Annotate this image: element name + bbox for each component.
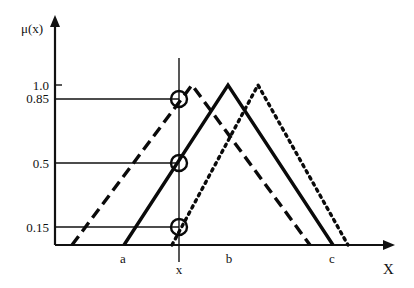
y-tick-label-0-85: 0.85 <box>4 92 49 105</box>
x-tick-label-c: c <box>320 252 344 265</box>
y-tick-label-0-5: 0.5 <box>4 157 49 170</box>
fuzzy-membership-figure: μ(x) 1.0 0.85 0.5 0.15 a x b c X <box>0 0 414 288</box>
x-tick-label-x: x <box>167 263 191 276</box>
x-tick-label-a: a <box>111 252 135 265</box>
x-axis-title: X <box>383 262 394 277</box>
plot-canvas <box>0 0 414 288</box>
x-axis-arrowhead <box>383 240 395 250</box>
y-axis-arrowhead <box>50 15 60 27</box>
y-axis <box>50 15 60 245</box>
x-tick-label-b: b <box>217 252 241 265</box>
x-axis <box>55 240 395 250</box>
y-axis-title: μ(x) <box>21 22 43 35</box>
membership-curve-dotted <box>172 85 348 245</box>
y-tick-label-0-15: 0.15 <box>4 221 49 234</box>
membership-curve-dashed <box>72 85 310 245</box>
